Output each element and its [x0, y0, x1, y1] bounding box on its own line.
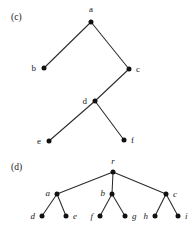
figure-container: (c)abcdef(d)rabcdefghi: [0, 0, 196, 232]
edge-a-c: [91, 22, 129, 69]
node-d[interactable]: [93, 99, 98, 104]
node-label-e: e: [37, 136, 41, 146]
node-label-c: c: [173, 189, 177, 199]
node-i[interactable]: [176, 214, 181, 219]
node-label-d: d: [83, 96, 88, 106]
node-label-g: g: [132, 211, 137, 221]
node-b[interactable]: [110, 192, 115, 197]
node-label-i: i: [185, 211, 188, 221]
edge-r-c: [113, 172, 166, 194]
edge-d-e: [49, 101, 95, 141]
node-label-r: r: [111, 156, 115, 166]
graph-figure-canvas: (c)abcdef(d)rabcdefghi: [0, 0, 196, 232]
node-label-b: b: [32, 63, 37, 73]
panel-d-caption: (d): [11, 162, 22, 173]
panel-c: (c)abcdef: [11, 4, 140, 146]
node-label-b: b: [101, 188, 106, 198]
panel-d-nodes: rabcdefghi: [31, 156, 189, 221]
node-f[interactable]: [122, 138, 127, 143]
panel-c-nodes: abcdef: [32, 4, 141, 146]
node-e[interactable]: [47, 139, 52, 144]
edge-b-g: [112, 194, 125, 216]
edge-a-b: [44, 22, 91, 68]
panels-group: (c)abcdef(d)rabcdefghi: [11, 4, 188, 221]
node-r[interactable]: [111, 170, 116, 175]
node-label-e: e: [73, 211, 77, 221]
panel-c-caption: (c): [11, 12, 22, 23]
node-c[interactable]: [127, 67, 132, 72]
node-label-d: d: [31, 211, 36, 221]
node-g[interactable]: [123, 214, 128, 219]
node-label-c: c: [136, 64, 140, 74]
edge-r-b: [112, 172, 113, 194]
edge-a-e: [57, 194, 66, 216]
node-h[interactable]: [153, 214, 158, 219]
node-label-f: f: [90, 211, 94, 221]
node-d[interactable]: [40, 214, 45, 219]
node-b[interactable]: [42, 66, 47, 71]
panel-c-edges: [44, 22, 129, 141]
edge-c-h: [155, 194, 166, 216]
node-label-a: a: [46, 188, 51, 198]
node-e[interactable]: [64, 214, 69, 219]
edge-c-d: [95, 69, 129, 101]
node-a[interactable]: [55, 192, 60, 197]
node-label-a: a: [89, 4, 93, 14]
edge-d-f: [95, 101, 124, 140]
node-label-h: h: [144, 211, 149, 221]
node-label-f: f: [131, 135, 134, 145]
node-a[interactable]: [89, 20, 94, 25]
node-f[interactable]: [98, 214, 103, 219]
panel-d: (d)rabcdefghi: [11, 156, 188, 221]
node-c[interactable]: [164, 192, 169, 197]
